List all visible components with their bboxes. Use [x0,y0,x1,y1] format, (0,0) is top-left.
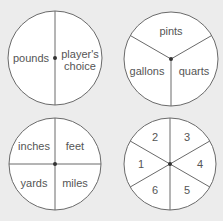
segment-label-pounds: pounds [13,52,50,64]
segment-label-4: 4 [197,158,203,170]
segment-label-3: 3 [184,131,190,143]
spinner-hub-icon [53,56,57,60]
segment-label-5: 5 [184,184,190,196]
spinners-diagram: pounds player's choice pints gallons qua… [0,0,223,221]
segment-label-pints: pints [159,25,183,37]
segment-label-gallons: gallons [130,65,165,77]
spinner-numbers: 1 2 3 4 5 6 [124,118,216,210]
spinner-weight: pounds player's choice [8,11,102,105]
spinner-hub-icon [168,162,172,166]
spinner-hub-icon [53,162,57,166]
segment-label-yards: yards [21,177,48,189]
segment-label-1: 1 [138,158,144,170]
spinner-length: inches feet yards miles [9,118,101,210]
segment-label-6: 6 [152,184,158,196]
spinner-volume: pints gallons quarts [124,12,218,106]
segment-label-2: 2 [152,131,158,143]
segment-label-miles: miles [62,177,88,189]
segment-label-inches: inches [18,140,50,152]
segment-label-choice: choice [64,60,96,72]
segment-label-quarts: quarts [179,65,210,77]
segment-label-feet: feet [66,140,84,152]
segment-label-players: player's [61,48,99,60]
spinner-hub-icon [169,57,173,61]
